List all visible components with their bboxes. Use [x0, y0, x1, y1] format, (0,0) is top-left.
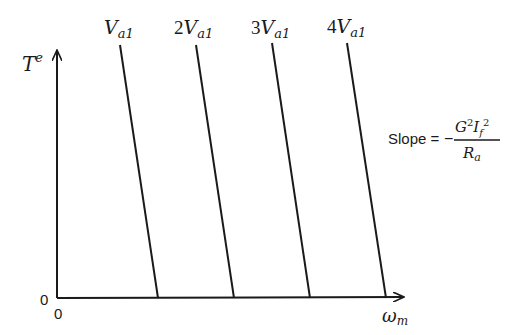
- slope-annotation: Slope = − G2If2 Ra: [388, 117, 500, 164]
- line-label-3va1: 3Va1: [251, 16, 290, 41]
- origin-x-label: 0: [54, 305, 62, 322]
- characteristic-line-va1: [120, 45, 158, 298]
- characteristic-line-2va1: [196, 45, 234, 298]
- characteristic-line-3va1: [272, 43, 310, 298]
- x-axis-label: ωm: [382, 305, 408, 328]
- line-label-2va1: 2Va1: [174, 16, 213, 41]
- slope-denominator: Ra: [462, 144, 481, 164]
- torque-speed-diagram: Te ωm 0 0 Va1 2Va1 3Va1 4Va1 Slope = − G…: [0, 0, 522, 335]
- line-label-4va1: 4Va1: [327, 15, 366, 40]
- slope-numerator: G2If2: [455, 117, 489, 138]
- x-axis: [57, 297, 404, 298]
- slope-sign: −: [444, 130, 453, 147]
- y-axis-label: Te: [22, 50, 43, 76]
- origin-y-label: 0: [40, 291, 48, 308]
- slope-prefix: Slope =: [388, 130, 440, 147]
- line-label-va1: Va1: [104, 16, 134, 41]
- characteristic-line-4va1: [347, 43, 386, 298]
